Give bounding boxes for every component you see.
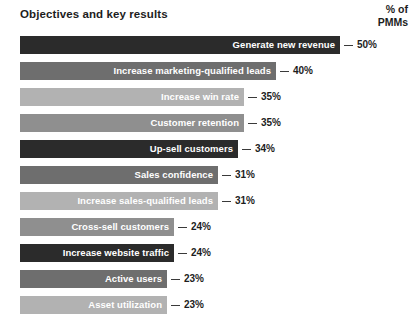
chart-bar-label: Cross-sell customers bbox=[71, 222, 169, 232]
leader-line bbox=[248, 123, 257, 124]
chart-bar-value: 23% bbox=[184, 270, 204, 288]
chart-bar: Sales confidence bbox=[20, 166, 218, 184]
chart-bar-row: Increase sales-qualified leads31% bbox=[0, 192, 412, 210]
leader-line bbox=[171, 305, 180, 306]
leader-line bbox=[242, 149, 251, 150]
chart-bar-value: 34% bbox=[255, 140, 275, 158]
chart-bar-row: Asset utilization23% bbox=[0, 296, 412, 314]
chart-bar: Up-sell customers bbox=[20, 140, 238, 158]
value-axis-header-line1: % of bbox=[338, 3, 408, 16]
chart-bar-row: Increase win rate35% bbox=[0, 88, 412, 106]
chart-bar-value: 35% bbox=[261, 88, 281, 106]
chart-bar: Increase website traffic bbox=[20, 244, 174, 262]
chart-bar-label: Active users bbox=[105, 274, 162, 284]
leader-line bbox=[171, 279, 180, 280]
chart-bar-value: 50% bbox=[357, 36, 377, 54]
chart-bar-value: 31% bbox=[235, 166, 255, 184]
chart-bar-label: Increase sales-qualified leads bbox=[77, 196, 213, 206]
leader-line bbox=[178, 227, 187, 228]
page-title: Objectives and key results bbox=[20, 8, 168, 20]
leader-line bbox=[248, 97, 257, 98]
chart-bar: Increase marketing-qualified leads bbox=[20, 62, 276, 80]
chart-bar: Asset utilization bbox=[20, 296, 167, 314]
chart-bar-label: Asset utilization bbox=[88, 300, 162, 310]
chart-bar-label: Customer retention bbox=[150, 118, 239, 128]
chart-bar-label: Sales confidence bbox=[135, 170, 213, 180]
leader-line bbox=[178, 253, 187, 254]
leader-line bbox=[280, 71, 289, 72]
chart-bar-label: Increase marketing-qualified leads bbox=[114, 66, 271, 76]
chart-bar: Increase win rate bbox=[20, 88, 244, 106]
chart-bar-row: Cross-sell customers24% bbox=[0, 218, 412, 236]
chart-bar-row: Increase website traffic24% bbox=[0, 244, 412, 262]
chart-bar-row: Increase marketing-qualified leads40% bbox=[0, 62, 412, 80]
chart-bar-row: Active users23% bbox=[0, 270, 412, 288]
chart-bar: Generate new revenue bbox=[20, 36, 340, 54]
value-axis-header-line2: PMMs bbox=[338, 16, 408, 29]
chart-bar-row: Sales confidence31% bbox=[0, 166, 412, 184]
chart-bar-value: 24% bbox=[191, 218, 211, 236]
chart-bar: Increase sales-qualified leads bbox=[20, 192, 218, 210]
leader-line bbox=[222, 201, 231, 202]
value-axis-header: % of PMMs bbox=[338, 3, 408, 29]
chart-bar-value: 40% bbox=[293, 62, 313, 80]
chart-bar-value: 35% bbox=[261, 114, 281, 132]
chart-bar-value: 31% bbox=[235, 192, 255, 210]
chart-header: Objectives and key results % of PMMs bbox=[0, 0, 412, 36]
chart-bar-label: Generate new revenue bbox=[233, 40, 335, 50]
chart-bar-row: Up-sell customers34% bbox=[0, 140, 412, 158]
leader-line bbox=[344, 45, 353, 46]
chart-bar: Customer retention bbox=[20, 114, 244, 132]
chart-bar-value: 23% bbox=[184, 296, 204, 314]
chart-bar-label: Increase win rate bbox=[161, 92, 239, 102]
chart-bar-label: Up-sell customers bbox=[150, 144, 233, 154]
chart-bar: Cross-sell customers bbox=[20, 218, 174, 236]
chart-bar-row: Generate new revenue50% bbox=[0, 36, 412, 54]
bar-rows: Generate new revenue50%Increase marketin… bbox=[0, 36, 412, 318]
chart-bar-row: Customer retention35% bbox=[0, 114, 412, 132]
chart-bar-label: Increase website traffic bbox=[63, 248, 169, 258]
chart-bar: Active users bbox=[20, 270, 167, 288]
chart-bar-value: 24% bbox=[191, 244, 211, 262]
leader-line bbox=[222, 175, 231, 176]
